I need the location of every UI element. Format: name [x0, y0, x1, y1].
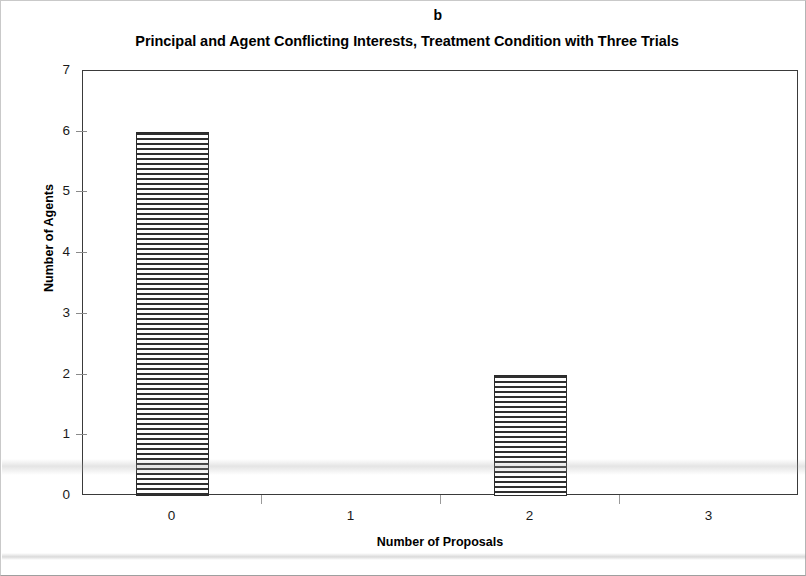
chart-figure: b Principal and Agent Conflicting Intere…: [0, 0, 806, 576]
y-axis-tick-label: 7: [30, 60, 70, 80]
bar-2: [494, 375, 567, 496]
x-axis-tick-label: 3: [649, 506, 769, 526]
y-axis-tick-mark: [76, 313, 87, 314]
x-axis-tick-mark: [261, 495, 262, 504]
chart-title-text: Principal and Agent Conflicting Interest…: [135, 33, 678, 49]
panel-label: b: [1, 7, 806, 23]
x-axis-title: Number of Proposals: [82, 535, 798, 549]
x-axis-tick-mark: [440, 495, 441, 504]
chart-title: Principal and Agent Conflicting Interest…: [1, 32, 806, 50]
scan-artifact-band-lower: [2, 553, 806, 560]
x-axis-tick-label: 2: [470, 506, 590, 526]
y-axis-tick-label: 0: [30, 485, 70, 505]
bar-0: [136, 132, 209, 496]
plot-area: [82, 70, 798, 495]
y-axis-tick-label: 2: [30, 364, 70, 384]
y-axis-tick-mark: [76, 252, 87, 253]
y-axis-tick-label: 1: [30, 424, 70, 444]
y-axis-tick-mark: [76, 374, 87, 375]
y-axis-tick-mark: [76, 434, 87, 435]
x-axis-tick-mark: [619, 495, 620, 504]
y-axis-tick-label: 4: [30, 242, 70, 262]
panel-label-text: b: [434, 7, 443, 23]
y-axis-tick-mark: [76, 131, 87, 132]
x-axis-tick-label: 0: [112, 506, 232, 526]
y-axis-tick-label: 6: [30, 121, 70, 141]
x-axis-tick-label: 1: [291, 506, 411, 526]
y-axis-tick-label: 3: [30, 303, 70, 323]
plot-inner: [83, 71, 797, 494]
y-axis-tick-label: 5: [30, 181, 70, 201]
y-axis-tick-mark: [76, 191, 87, 192]
